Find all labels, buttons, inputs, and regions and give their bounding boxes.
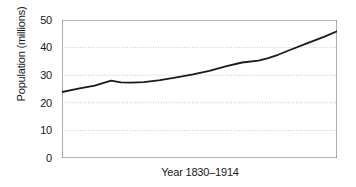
y-tick-label: 50 <box>22 15 52 26</box>
y-tick-label: 40 <box>22 42 52 53</box>
y-tick-label: 20 <box>22 98 52 109</box>
population-line-chart: Population (millions) 50 40 30 20 10 0 Y… <box>0 0 356 187</box>
x-axis-title: Year 1830–1914 <box>62 166 338 179</box>
plot-svg <box>62 20 337 158</box>
y-tick-label: 0 <box>22 153 52 164</box>
y-tick-label: 30 <box>22 70 52 81</box>
gridlines <box>62 48 337 131</box>
plot-area <box>62 20 337 158</box>
plot-frame <box>62 20 337 158</box>
y-axis-tick-labels: 50 40 30 20 10 0 <box>22 0 52 187</box>
population-data-line <box>62 31 337 92</box>
y-tick-label: 10 <box>22 125 52 136</box>
